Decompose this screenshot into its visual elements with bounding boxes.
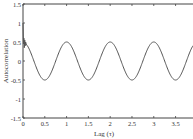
y-tick-label: -0.5 xyxy=(11,77,21,84)
plot-frame xyxy=(23,4,193,118)
y-tick-label: 1.5 xyxy=(13,1,21,8)
x-tick-label: 3 xyxy=(152,120,155,127)
y-tick-label: -1 xyxy=(16,96,21,103)
y-tick-label: 0.5 xyxy=(13,39,21,46)
x-tick-label: 0.5 xyxy=(41,120,49,127)
y-tick-label: -1.5 xyxy=(11,115,21,122)
x-tick-label: 1 xyxy=(65,120,68,127)
y-tick-label: 1 xyxy=(18,20,21,27)
x-tick-label: 1.5 xyxy=(84,120,92,127)
x-tick-label: 2.5 xyxy=(128,120,136,127)
autocorrelation-line xyxy=(23,23,193,80)
autocorrelation-chart: -1.5-1-0.500.511.5 00.511.522.533.5 Auto… xyxy=(0,0,193,139)
y-tick-label: 0 xyxy=(18,58,21,65)
x-tick-label: 3.5 xyxy=(172,120,180,127)
x-axis-ticks: 00.511.522.533.5 xyxy=(21,4,179,127)
y-axis-label: Autocorrelation xyxy=(2,38,10,83)
x-tick-label: 0 xyxy=(21,120,24,127)
x-axis-label: Lag (τ) xyxy=(94,130,115,138)
x-tick-label: 2 xyxy=(109,120,112,127)
